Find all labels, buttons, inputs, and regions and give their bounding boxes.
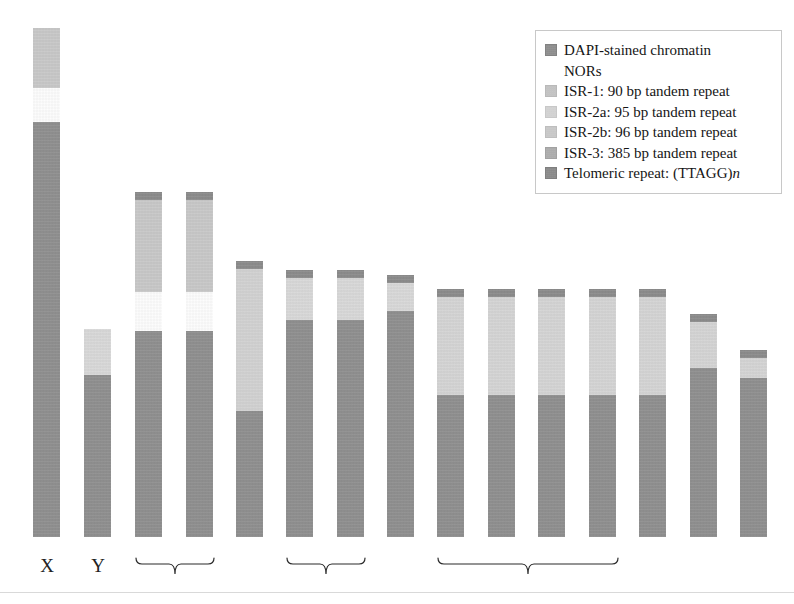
legend-label-isr_3: ISR-3: 385 bp tandem repeat (564, 144, 737, 163)
chromosome-X (33, 0, 60, 537)
chrom-label-y: Y (84, 556, 112, 575)
chromosome-X-segment-isr_1 (33, 28, 60, 88)
chromosome-Y (84, 0, 111, 537)
chromosome-Y-segment-isr_2a (84, 329, 111, 375)
legend-swatch-dapi_chromatin-icon (545, 44, 557, 56)
legend-swatch-isr_2a-icon (545, 106, 557, 118)
chromosome-6-segment-isr_2a (387, 283, 414, 311)
legend-swatch-isr_3-icon (545, 147, 557, 159)
chromosome-11-segment-isr_2b (639, 297, 666, 395)
chromosome-13-segment-telomeric (740, 350, 767, 358)
legend-item-telomeric: Telomeric repeat: (TTAGG)n (545, 164, 773, 185)
legend-swatch-isr_1-icon (545, 85, 557, 97)
chromosome-8 (488, 0, 515, 537)
chromosome-X-segment-nors (33, 88, 60, 122)
chromosome-2-segment-telomeric (186, 192, 213, 200)
chromosome-1-segment-dapi (135, 331, 162, 537)
chromosome-1-segment-telomeric (135, 192, 162, 200)
chromosome-10-segment-telomeric (589, 289, 616, 297)
chromosome-2-segment-dapi (186, 331, 213, 537)
chromosome-3-segment-isr_2b (236, 269, 263, 411)
legend-swatch-telomeric-icon (545, 167, 557, 179)
legend-label-dapi_chromatin: DAPI-stained chromatin (564, 41, 711, 60)
chromosome-13-segment-dapi (740, 378, 767, 537)
legend-item-isr_2a: ISR-2a: 95 bp tandem repeat (545, 103, 773, 124)
chromosome-5 (337, 0, 364, 537)
legend-item-isr_1: ISR-1: 90 bp tandem repeat (545, 82, 773, 103)
chromosome-5-segment-dapi (337, 320, 364, 537)
chromosome-11-segment-dapi (639, 395, 666, 537)
chromosome-8-segment-dapi (488, 395, 515, 537)
bottom-rule-divider (0, 592, 794, 593)
chromosome-7-segment-telomeric (437, 289, 464, 297)
chromosome-5-segment-isr_2a (337, 278, 364, 320)
legend-label-telomeric: Telomeric repeat: (TTAGG)n (564, 164, 740, 183)
brace-group-1 (135, 553, 215, 577)
brace-group-2 (286, 553, 366, 577)
chromosome-4 (286, 0, 313, 537)
chromosome-4-segment-isr_2a (286, 278, 313, 320)
chromosome-6-segment-dapi (387, 311, 414, 537)
chromosome-Y-segment-dapi (84, 375, 111, 537)
legend-label-nors: NORs (564, 62, 602, 81)
chromosome-6-segment-telomeric (387, 275, 414, 283)
chromosome-8-segment-isr_2b (488, 297, 515, 395)
legend-item-isr_3: ISR-3: 385 bp tandem repeat (545, 144, 773, 165)
legend-item-dapi_chromatin: DAPI-stained chromatin (545, 41, 773, 62)
chromosome-1-segment-isr_1 (135, 200, 162, 292)
legend-item-nors: NORs (545, 62, 773, 83)
chromosome-10-segment-dapi (589, 395, 616, 537)
chromosome-2-segment-nors (186, 292, 213, 331)
chromosome-12-segment-isr_2b (690, 322, 717, 368)
chromosome-5-segment-telomeric (337, 270, 364, 278)
chromosome-12-segment-dapi (690, 368, 717, 537)
legend-label-isr_2b: ISR-2b: 96 bp tandem repeat (564, 123, 737, 142)
chromosome-13-segment-isr_2b (740, 358, 767, 378)
chromosome-X-segment-dapi (33, 122, 60, 537)
chromosome-3-segment-dapi (236, 411, 263, 537)
chromosome-7-segment-isr_2b (437, 297, 464, 395)
chromosome-9-segment-isr_2b (538, 297, 565, 395)
chromosome-6 (387, 0, 414, 537)
legend-label-isr_1: ISR-1: 90 bp tandem repeat (564, 82, 730, 101)
legend-swatch-isr_2b-icon (545, 126, 557, 138)
legend-box: DAPI-stained chromatinNORsISR-1: 90 bp t… (535, 30, 782, 194)
chromosome-7-segment-dapi (437, 395, 464, 537)
chromosome-3-segment-telomeric (236, 261, 263, 269)
chromosome-4-segment-telomeric (286, 270, 313, 278)
chromosome-8-segment-telomeric (488, 289, 515, 297)
chromosome-1-segment-nors (135, 292, 162, 331)
chromosome-4-segment-dapi (286, 320, 313, 537)
chromosome-3 (236, 0, 263, 537)
legend-label-isr_2a: ISR-2a: 95 bp tandem repeat (564, 103, 736, 122)
brace-group-3 (437, 553, 619, 577)
chromosome-11-segment-telomeric (639, 289, 666, 297)
chromosome-9-segment-dapi (538, 395, 565, 537)
chromosome-10-segment-isr_2b (589, 297, 616, 395)
chromosome-9-segment-telomeric (538, 289, 565, 297)
chromosome-12-segment-telomeric (690, 314, 717, 322)
chromosome-2-segment-isr_1 (186, 200, 213, 292)
chromosome-7 (437, 0, 464, 537)
chrom-label-x: X (33, 556, 61, 575)
chromosome-ideogram-figure: XY DAPI-stained chromatinNORsISR-1: 90 b… (0, 0, 794, 604)
legend-swatch-nors-icon (545, 65, 557, 77)
legend-item-isr_2b: ISR-2b: 96 bp tandem repeat (545, 123, 773, 144)
chromosome-2 (186, 0, 213, 537)
chromosome-1 (135, 0, 162, 537)
